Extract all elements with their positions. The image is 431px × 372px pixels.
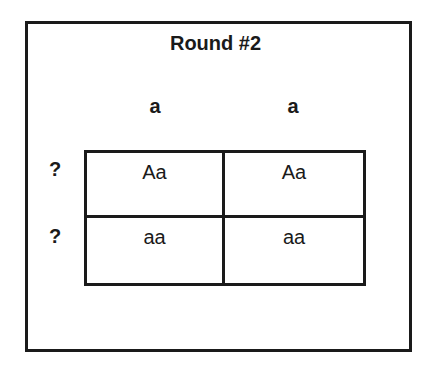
grid-cell-r2c2: aa: [225, 218, 363, 283]
column-header-allele-1: a: [135, 95, 175, 118]
column-header-allele-2: a: [273, 95, 313, 118]
grid-cell-r1c1: Aa: [87, 153, 225, 218]
punnett-grid: Aa Aa aa aa: [84, 150, 366, 286]
row-header-allele-2: ?: [44, 225, 66, 248]
grid-cell-r1c2: Aa: [225, 153, 363, 218]
diagram-title: Round #2: [0, 32, 431, 55]
row-header-allele-1: ?: [44, 158, 66, 181]
grid-cell-r2c1: aa: [87, 218, 225, 283]
